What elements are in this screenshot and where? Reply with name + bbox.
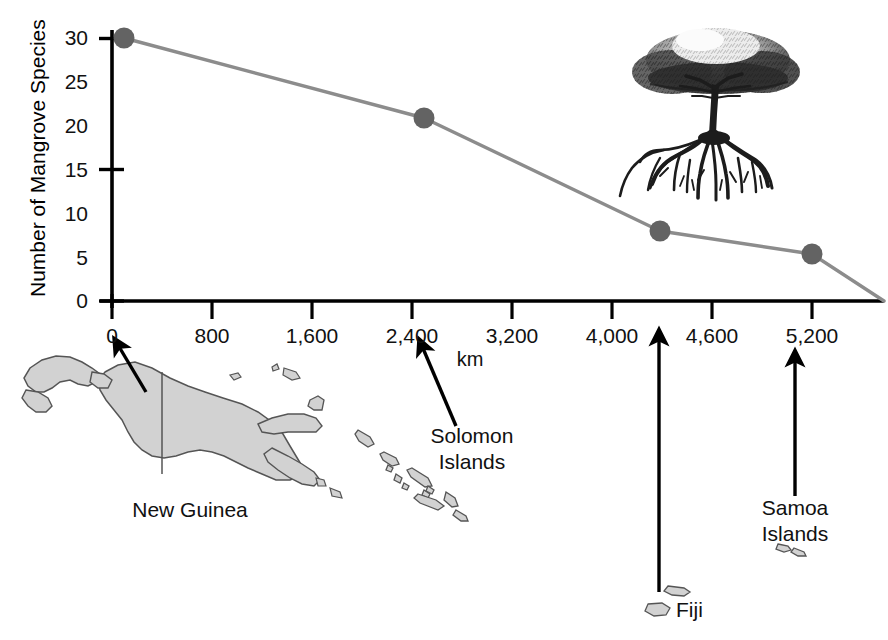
samoa-islands-map bbox=[776, 544, 806, 556]
mangrove-species-figure: Number of Mangrove Species 30 25 20 15 1… bbox=[0, 0, 888, 640]
x-tick-label-4000: 4,000 bbox=[572, 324, 652, 348]
map-label-solomon-islands-line1: Solomon bbox=[398, 424, 546, 448]
map-label-samoa-islands-line2: Islands bbox=[725, 522, 865, 546]
new-guinea-map bbox=[22, 356, 342, 498]
x-axis-ticks bbox=[112, 294, 812, 319]
x-tick-label-1600: 1,600 bbox=[272, 324, 352, 348]
y-tick-label-20: 20 bbox=[42, 114, 88, 138]
data-point bbox=[114, 28, 135, 49]
x-tick-label-2400: 2,400 bbox=[372, 324, 452, 348]
y-tick-label-0: 0 bbox=[42, 289, 88, 313]
map-label-samoa-islands-line1: Samoa bbox=[725, 496, 865, 520]
x-tick-label-800: 800 bbox=[172, 324, 252, 348]
data-point bbox=[802, 244, 823, 265]
x-tick-label-3200: 3,200 bbox=[472, 324, 552, 348]
y-tick-label-25: 25 bbox=[42, 70, 88, 94]
x-tick-label-0: 0 bbox=[72, 324, 152, 348]
data-point bbox=[650, 221, 671, 242]
map-label-new-guinea: New Guinea bbox=[115, 498, 265, 522]
y-tick-label-10: 10 bbox=[42, 202, 88, 226]
x-axis-title: km bbox=[440, 348, 500, 371]
x-tick-label-5200: 5,200 bbox=[772, 324, 852, 348]
map-label-fiji: Fiji bbox=[676, 598, 746, 622]
y-tick-label-5: 5 bbox=[42, 246, 88, 270]
y-tick-label-30: 30 bbox=[42, 26, 88, 50]
mangrove-tree-illustration bbox=[620, 28, 800, 200]
map-label-solomon-islands-line2: Islands bbox=[398, 450, 546, 474]
y-tick-label-15: 15 bbox=[42, 158, 88, 182]
x-tick-label-4600: 4,600 bbox=[672, 324, 752, 348]
data-point bbox=[414, 108, 435, 129]
